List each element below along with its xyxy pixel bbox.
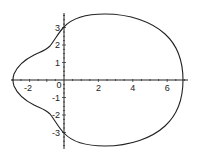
- y-tick-label: 2: [55, 40, 60, 50]
- y-tick-label: 1: [55, 58, 60, 68]
- x-tick-label: 6: [165, 83, 170, 93]
- polar-plot: -2 0 2 4 6 3 2 1 -1 -2 -3: [0, 0, 197, 159]
- x-tick-label: 4: [130, 83, 135, 93]
- y-tick-label: 3: [55, 23, 60, 33]
- x-axis-ticks: [12, 79, 184, 82]
- x-tick-label: 0: [56, 80, 61, 90]
- x-tick-label: 2: [96, 83, 101, 93]
- y-tick-label: -1: [52, 93, 60, 103]
- y-tick-label: -3: [52, 128, 60, 138]
- x-tick-label: -2: [24, 83, 32, 93]
